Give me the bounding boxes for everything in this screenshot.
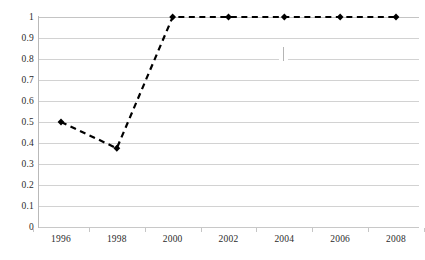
data-point-marker: [225, 14, 232, 21]
data-point-marker: [58, 119, 65, 126]
data-point-marker: [281, 14, 288, 21]
data-point-marker: [113, 145, 120, 152]
data-point-marker: [337, 14, 344, 21]
series-line: [61, 17, 396, 148]
data-point-marker: [393, 14, 400, 21]
data-point-marker: [169, 14, 176, 21]
